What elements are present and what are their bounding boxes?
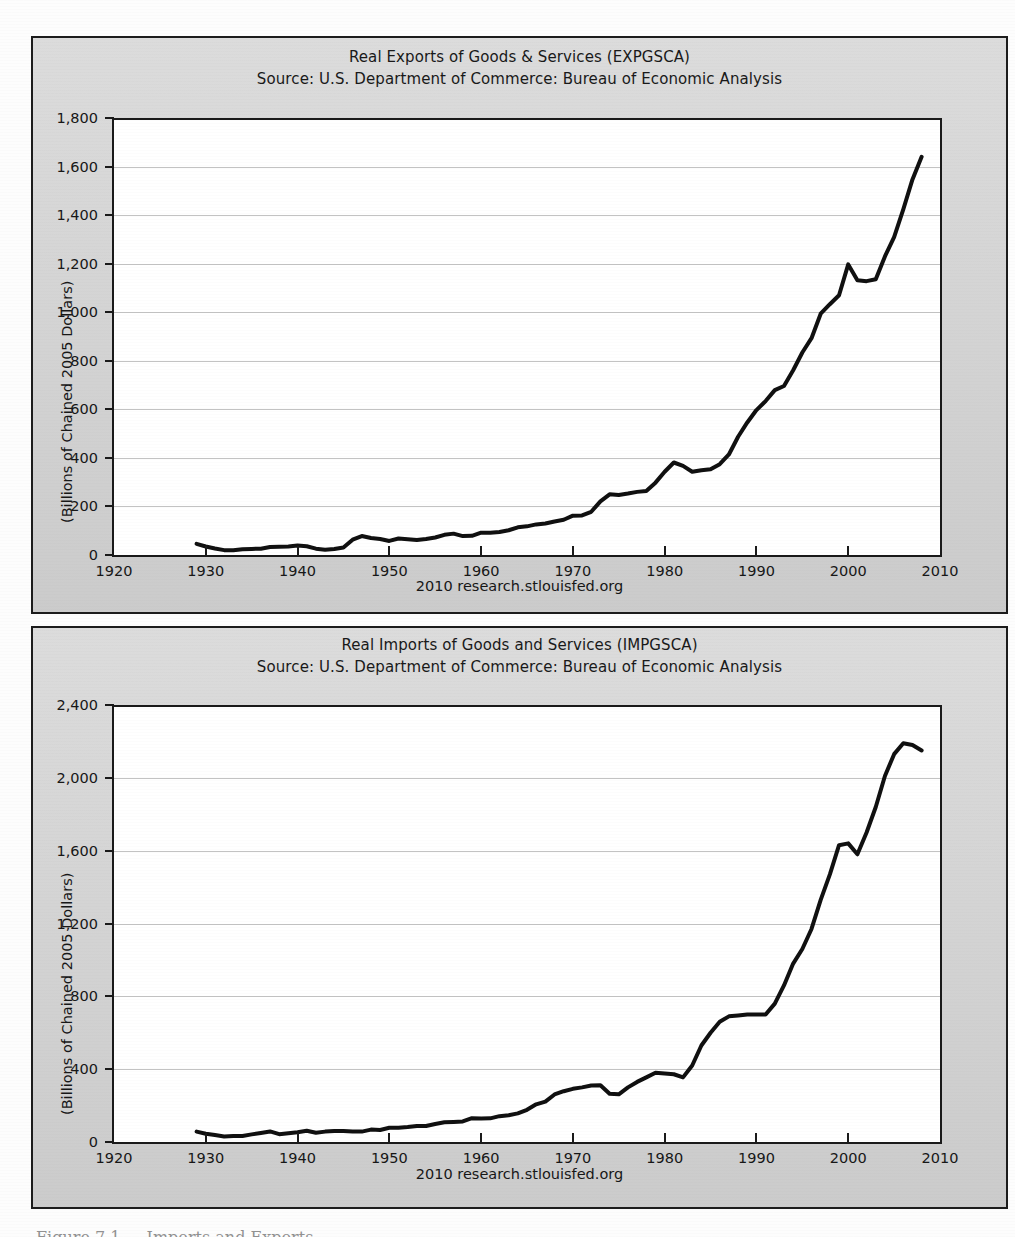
x-axis-line — [112, 555, 942, 557]
series-line-EXPGSCA — [114, 118, 940, 555]
x-axis-tick-label: 1980 — [646, 563, 683, 579]
chart-imports-plot-area — [114, 705, 940, 1142]
chart-imports-subtitle: Source: U.S. Department of Commerce: Bur… — [33, 656, 1006, 678]
x-axis-tick-mark — [205, 546, 207, 555]
y-axis-tick-label: 1,600 — [33, 843, 98, 859]
chart-exports-title: Real Exports of Goods & Services (EXPGSC… — [33, 46, 1006, 68]
data-line — [197, 157, 922, 550]
x-axis-tick-mark — [480, 1133, 482, 1142]
document-page: Real Exports of Goods & Services (EXPGSC… — [0, 0, 1015, 1237]
y-axis-tick-label: 2,400 — [33, 697, 98, 713]
series-line-IMPGSCA — [114, 705, 940, 1142]
x-axis-tick-mark — [388, 1133, 390, 1142]
y-axis-tick-label: 1,600 — [33, 159, 98, 175]
x-axis-tick-mark — [664, 546, 666, 555]
x-axis-tick-label: 1980 — [646, 1150, 683, 1166]
x-axis-tick-label: 2000 — [830, 563, 867, 579]
chart-imports-footer: 2010 research.stlouisfed.org — [33, 1166, 1006, 1182]
x-axis-tick-mark — [755, 546, 757, 555]
y-axis-tick-label: 0 — [33, 1134, 98, 1150]
x-axis-line — [112, 1142, 942, 1144]
x-axis-tick-mark — [572, 546, 574, 555]
chart-exports-plot-area — [114, 118, 940, 555]
chart-panel-exports: Real Exports of Goods & Services (EXPGSC… — [31, 36, 1008, 614]
x-axis-tick-mark — [572, 1133, 574, 1142]
data-line — [197, 743, 922, 1136]
x-axis-tick-label: 1990 — [738, 1150, 775, 1166]
x-axis-tick-mark — [297, 1133, 299, 1142]
y-axis-tick-label: 1,200 — [33, 256, 98, 272]
y-axis-tick-label: 2,000 — [33, 770, 98, 786]
y-axis-tick-label: 800 — [33, 988, 98, 1004]
plot-right-border — [940, 705, 942, 1144]
x-axis-tick-label: 1930 — [187, 1150, 224, 1166]
x-axis-tick-label: 1970 — [554, 563, 591, 579]
y-axis-line — [112, 705, 114, 1144]
chart-exports-titles: Real Exports of Goods & Services (EXPGSC… — [33, 46, 1006, 90]
y-axis-tick-label: 0 — [33, 547, 98, 563]
chart-imports-titles: Real Imports of Goods and Services (IMPG… — [33, 634, 1006, 678]
y-axis-tick-label: 600 — [33, 401, 98, 417]
x-axis-tick-label: 1970 — [554, 1150, 591, 1166]
x-axis-tick-label: 1960 — [463, 1150, 500, 1166]
y-axis-tick-label: 1,000 — [33, 304, 98, 320]
chart-exports-footer: 2010 research.stlouisfed.org — [33, 578, 1006, 594]
y-axis-tick-label: 1,200 — [33, 916, 98, 932]
x-axis-tick-label: 1920 — [96, 1150, 133, 1166]
x-axis-tick-mark — [755, 1133, 757, 1142]
y-axis-line — [112, 118, 114, 557]
y-axis-tick-label: 800 — [33, 353, 98, 369]
y-axis-tick-label: 200 — [33, 498, 98, 514]
y-axis-tick-label: 1,800 — [33, 110, 98, 126]
x-axis-tick-label: 1990 — [738, 563, 775, 579]
x-axis-tick-mark — [297, 546, 299, 555]
x-axis-tick-mark — [205, 1133, 207, 1142]
plot-right-border — [940, 118, 942, 557]
y-axis-tick-label: 400 — [33, 1061, 98, 1077]
x-axis-tick-label: 1960 — [463, 563, 500, 579]
x-axis-tick-mark — [847, 1133, 849, 1142]
chart-panel-imports: Real Imports of Goods and Services (IMPG… — [31, 626, 1008, 1209]
x-axis-tick-label: 1930 — [187, 563, 224, 579]
y-axis-tick-label: 400 — [33, 450, 98, 466]
x-axis-tick-label: 1940 — [279, 563, 316, 579]
x-axis-tick-mark — [664, 1133, 666, 1142]
x-axis-tick-label: 2010 — [922, 1150, 959, 1166]
x-axis-tick-mark — [480, 546, 482, 555]
x-axis-tick-label: 1920 — [96, 563, 133, 579]
x-axis-tick-label: 2000 — [830, 1150, 867, 1166]
x-axis-tick-label: 1950 — [371, 1150, 408, 1166]
chart-exports-subtitle: Source: U.S. Department of Commerce: Bur… — [33, 68, 1006, 90]
x-axis-tick-label: 2010 — [922, 563, 959, 579]
y-axis-tick-label: 1,400 — [33, 207, 98, 223]
x-axis-tick-label: 1940 — [279, 1150, 316, 1166]
x-axis-tick-mark — [388, 546, 390, 555]
plot-top-border — [112, 705, 942, 707]
plot-top-border — [112, 118, 942, 120]
page-caption-fragment: Figure 7.1 — Imports and Exports — [36, 1228, 456, 1237]
x-axis-tick-label: 1950 — [371, 563, 408, 579]
x-axis-tick-mark — [847, 546, 849, 555]
chart-imports-title: Real Imports of Goods and Services (IMPG… — [33, 634, 1006, 656]
